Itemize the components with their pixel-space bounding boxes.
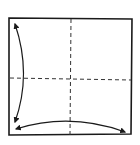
- origami-diagram: Fold in half both ways and unfold: [0, 0, 140, 145]
